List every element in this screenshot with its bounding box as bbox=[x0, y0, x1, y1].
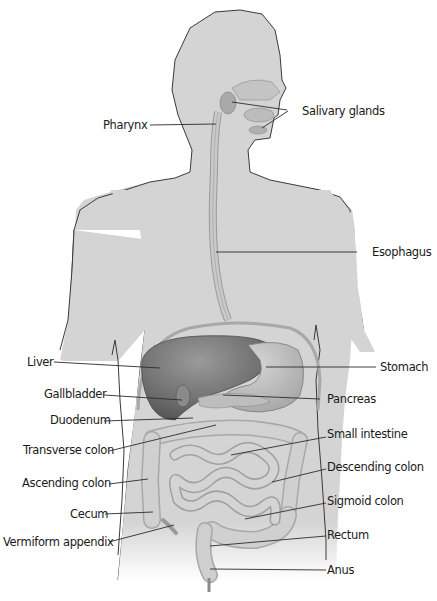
label-rectum: Rectum bbox=[327, 529, 369, 542]
label-transverse-colon: Transverse colon bbox=[23, 444, 114, 457]
gallbladder bbox=[176, 385, 190, 407]
label-pharynx: Pharynx bbox=[103, 119, 147, 132]
tongue bbox=[244, 108, 274, 122]
label-esophagus: Esophagus bbox=[372, 246, 431, 259]
label-liver: Liver bbox=[27, 356, 53, 369]
parotid-gland bbox=[220, 92, 236, 114]
submandibular-gland bbox=[249, 126, 267, 134]
anatomy-illustration bbox=[0, 0, 437, 601]
label-sigmoid-colon: Sigmoid colon bbox=[327, 495, 404, 508]
arm-left bbox=[60, 230, 152, 361]
label-pancreas: Pancreas bbox=[327, 393, 376, 406]
label-cecum: Cecum bbox=[70, 508, 108, 521]
label-vermiform-appendix: Vermiform appendix bbox=[3, 536, 113, 549]
digestive-system-diagram: Pharynx Liver Gallbladder Duodenum Trans… bbox=[0, 0, 437, 601]
label-ascending-colon: Ascending colon bbox=[22, 477, 111, 490]
label-gallbladder: Gallbladder bbox=[44, 388, 106, 401]
label-descending-colon: Descending colon bbox=[327, 461, 424, 474]
label-anus: Anus bbox=[327, 564, 354, 577]
label-stomach: Stomach bbox=[380, 361, 428, 374]
label-salivary-glands: Salivary glands bbox=[302, 105, 385, 118]
label-small-intestine: Small intestine bbox=[327, 428, 407, 441]
label-duodenum: Duodenum bbox=[50, 414, 111, 427]
